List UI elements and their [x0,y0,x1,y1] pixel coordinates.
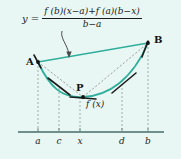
tick-label-a: a [32,137,44,146]
label-point-b: B [154,35,162,45]
point-marker-P [81,95,85,99]
tick-label-d: d [116,137,128,146]
curve-function-label: f (x) [86,100,104,109]
point-marker-B [146,41,150,45]
equation-lhs: y = [22,13,39,24]
label-point-a: A [26,57,34,67]
equation-numerator: f (b)(x−a)+f (a)(b−x) [42,7,142,18]
equation-label: y = f (b)(x−a)+f (a)(b−x) b−a [22,7,142,30]
tick-label-b: b [142,137,154,146]
equation-fraction: f (b)(x−a)+f (a)(b−x) b−a [42,7,142,30]
label-point-p: P [76,83,84,93]
figure-canvas: y = f (b)(x−a)+f (a)(b−x) b−a A B P f (x… [0,0,181,159]
equation-denominator: b−a [81,19,104,30]
tick-label-x: x [74,137,86,146]
tick-label-c: c [53,137,65,146]
point-marker-A [36,60,40,64]
